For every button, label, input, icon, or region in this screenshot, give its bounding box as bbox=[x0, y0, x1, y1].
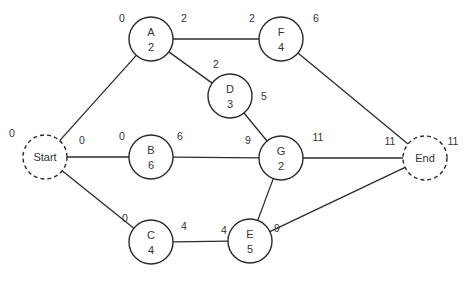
node-d: D3 bbox=[208, 74, 252, 118]
node-duration: 5 bbox=[247, 243, 253, 255]
node-label: E bbox=[246, 228, 253, 240]
time-label: 0 bbox=[9, 127, 15, 139]
node-g: G2 bbox=[259, 136, 303, 180]
node-duration: 4 bbox=[278, 41, 284, 53]
node-a: A2 bbox=[129, 17, 173, 61]
edge-start-a bbox=[60, 55, 137, 140]
node-circle bbox=[208, 74, 252, 118]
edges bbox=[60, 39, 408, 242]
time-label: 0 bbox=[119, 12, 125, 24]
node-label: Start bbox=[33, 151, 56, 163]
time-label: 11 bbox=[385, 135, 396, 147]
time-label: 0 bbox=[122, 212, 128, 224]
node-label: G bbox=[277, 145, 286, 157]
time-label: 0 bbox=[79, 134, 85, 146]
node-circle bbox=[129, 135, 173, 179]
time-label: 2 bbox=[181, 12, 187, 24]
node-circle bbox=[259, 136, 303, 180]
node-label: B bbox=[147, 144, 154, 156]
time-label: 4 bbox=[181, 220, 187, 232]
edge-a-d bbox=[169, 52, 212, 83]
network-diagram: StartA2B6C4D3F4G2E5End 00022526069111111… bbox=[0, 0, 471, 282]
time-label: 9 bbox=[245, 134, 251, 146]
node-start: Start bbox=[23, 135, 67, 179]
node-end: End bbox=[403, 136, 447, 180]
time-label: 11 bbox=[448, 135, 459, 147]
nodes: StartA2B6C4D3F4G2E5End bbox=[23, 17, 447, 264]
node-circle bbox=[129, 17, 173, 61]
node-circle bbox=[259, 17, 303, 61]
time-label: 0 bbox=[119, 130, 125, 142]
node-label: End bbox=[415, 152, 435, 164]
node-duration: 4 bbox=[148, 244, 154, 256]
time-label: 4 bbox=[221, 224, 227, 236]
edge-e-g bbox=[258, 179, 274, 221]
time-label: 6 bbox=[313, 12, 319, 24]
node-e: E5 bbox=[228, 219, 272, 263]
node-f: F4 bbox=[259, 17, 303, 61]
node-c: C4 bbox=[129, 220, 173, 264]
node-label: D bbox=[226, 83, 234, 95]
time-label: 2 bbox=[249, 12, 255, 24]
edge-c-e bbox=[173, 241, 228, 242]
edge-b-g bbox=[173, 157, 259, 158]
node-circle bbox=[228, 219, 272, 263]
time-label: 5 bbox=[261, 90, 267, 102]
time-label: 2 bbox=[213, 58, 219, 70]
node-label: A bbox=[147, 26, 155, 38]
node-circle bbox=[129, 220, 173, 264]
node-label: F bbox=[278, 26, 285, 38]
node-duration: 2 bbox=[278, 160, 284, 172]
node-duration: 3 bbox=[227, 98, 233, 110]
time-label: 6 bbox=[177, 130, 183, 142]
time-label: 9 bbox=[274, 222, 280, 234]
node-duration: 6 bbox=[148, 159, 154, 171]
node-duration: 2 bbox=[148, 41, 154, 53]
node-label: C bbox=[147, 229, 155, 241]
time-labels: 000225260691111110449 bbox=[9, 12, 459, 236]
time-label: 11 bbox=[313, 131, 324, 143]
node-b: B6 bbox=[129, 135, 173, 179]
